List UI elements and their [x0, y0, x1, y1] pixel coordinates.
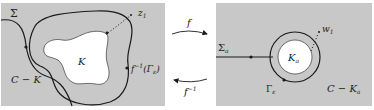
label-f: f: [186, 17, 193, 28]
label-f-inverse: f−1: [183, 85, 197, 97]
sigma-marker: [24, 45, 27, 48]
boundary-point: [106, 32, 109, 35]
arrow-backward: [174, 79, 207, 82]
mapping-diagram: Σ z1 K C − K f−1(Γε) f f−1 Σa w1 Ka Γε C…: [0, 0, 374, 110]
label-complement-k-a: C − Ka: [327, 83, 361, 95]
mapping-arrows: f f−1: [172, 17, 207, 97]
left-panel: Σ z1 K C − K f−1(Γε): [1, 3, 165, 106]
label-sigma: Σ: [10, 7, 18, 20]
arrow-forward: [172, 31, 207, 34]
right-panel: Σa w1 Ka Γε C − Ka: [216, 3, 372, 106]
label-k: K: [77, 56, 86, 67]
point-z1: [130, 14, 132, 16]
sigma-a-marker: [249, 55, 252, 58]
point-w1: [318, 31, 320, 33]
label-complement-k: C − K: [11, 74, 41, 85]
gamma-marker: [282, 78, 285, 81]
preimage-marker: [125, 66, 128, 69]
